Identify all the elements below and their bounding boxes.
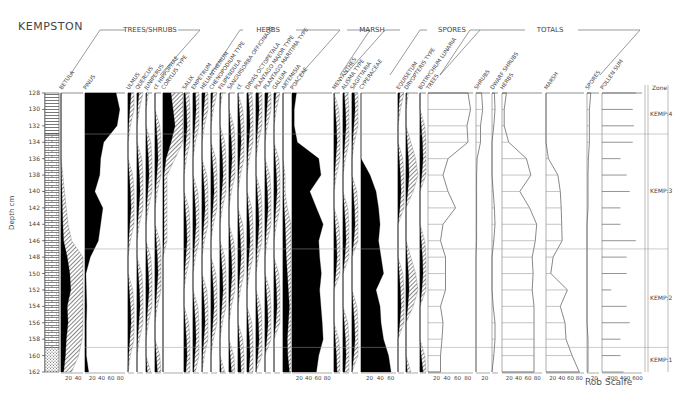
svg-text:132: 132: [29, 122, 41, 129]
svg-text:20: 20: [481, 375, 488, 381]
taxon-column-cf-: cf.: [235, 82, 244, 373]
svg-text:136: 136: [29, 155, 41, 162]
svg-text:146: 146: [29, 237, 41, 244]
svg-text:130: 130: [29, 105, 41, 112]
svg-text:40: 40: [305, 375, 312, 381]
y-axis-label-text: Depth cm: [8, 196, 16, 230]
taxon-column-juniperus: JUNIPERUS: [142, 63, 166, 373]
pollen-diagram: 1281301321341361381401421441461481501521…: [0, 0, 682, 409]
taxon-column-herbs: HERBS20406080: [499, 71, 542, 381]
lithology-column: [45, 93, 59, 372]
taxon-label: cf.: [235, 82, 244, 91]
zone-label: KEMP:4: [650, 110, 673, 117]
svg-text:140: 140: [29, 187, 41, 194]
svg-text:138: 138: [29, 171, 41, 178]
svg-text:20: 20: [89, 375, 96, 381]
taxon-column-spores: SPORES20: [584, 69, 602, 381]
svg-text:152: 152: [29, 286, 41, 293]
svg-text:20: 20: [65, 375, 72, 381]
svg-text:60: 60: [387, 375, 394, 381]
group-header: HERBS: [256, 26, 280, 34]
svg-text:20: 20: [366, 375, 373, 381]
svg-text:60: 60: [524, 375, 531, 381]
svg-text:148: 148: [29, 253, 41, 260]
svg-text:160: 160: [29, 352, 41, 359]
zone-label: KEMP:3: [650, 187, 673, 194]
svg-text:600: 600: [632, 375, 643, 381]
svg-text:60: 60: [314, 375, 321, 381]
svg-text:156: 156: [29, 319, 41, 326]
svg-text:80: 80: [576, 375, 583, 381]
svg-text:20: 20: [506, 375, 513, 381]
taxon-label: POLLEN SUM: [599, 58, 624, 91]
taxon-column-botrychium-lunaria: BOTRYCHIUM LUNARIA: [417, 36, 458, 373]
taxon-column-poaceae: POACEAE20406080: [289, 66, 332, 381]
taxon-label: MARSH: [543, 71, 559, 91]
svg-text:20: 20: [296, 375, 303, 381]
group-header: SPORES: [438, 26, 466, 34]
svg-text:20: 20: [433, 375, 440, 381]
taxon-column-quercus: QUERCUS: [134, 65, 155, 373]
svg-text:80: 80: [464, 375, 471, 381]
taxon-column-marsh: MARSH20406080: [543, 71, 584, 381]
svg-text:200: 200: [607, 375, 618, 381]
svg-text:80: 80: [534, 375, 541, 381]
svg-text:40: 40: [515, 375, 522, 381]
svg-text:20: 20: [549, 375, 556, 381]
group-header: TREES/SHRUBS: [122, 26, 177, 34]
svg-text:134: 134: [29, 138, 41, 145]
svg-text:60: 60: [567, 375, 574, 381]
group-header: TOTALS: [536, 26, 564, 34]
taxon-column-dryopteris-type: DRYOPTERIS TYPE: [403, 46, 437, 373]
taxon-column-pollen-sum: POLLEN SUM200400600: [599, 58, 648, 381]
taxon-label: BETULA: [58, 69, 75, 90]
taxon-label: PINUS: [82, 73, 97, 90]
svg-text:80: 80: [324, 375, 331, 381]
svg-text:Zone: Zone: [652, 84, 668, 91]
svg-text:144: 144: [29, 220, 41, 227]
svg-text:400: 400: [620, 375, 631, 381]
taxon-column-cyperaceae: CYPERACEAE204060: [358, 57, 396, 381]
svg-text:40: 40: [75, 375, 82, 381]
svg-text:154: 154: [29, 302, 41, 309]
svg-text:40: 40: [377, 375, 384, 381]
taxon-column-pinus: PINUS20406080: [82, 73, 125, 381]
svg-text:40: 40: [558, 375, 565, 381]
taxon-column-equisetum: EQUISETUM: [395, 60, 419, 373]
svg-text:128: 128: [29, 89, 41, 96]
zone-label: KEMP:2: [650, 294, 673, 301]
taxon-column-empetrum: EMPETRUM: [190, 62, 213, 373]
zone-label: KEMP:1: [650, 356, 673, 363]
svg-text:60: 60: [107, 375, 114, 381]
taxon-column-betula: BETULA2040: [58, 69, 83, 381]
svg-text:158: 158: [29, 335, 41, 342]
svg-text:20: 20: [591, 375, 598, 381]
group-header: MARSH: [359, 26, 384, 34]
svg-text:40: 40: [443, 375, 450, 381]
svg-text:80: 80: [117, 375, 124, 381]
svg-text:162: 162: [29, 368, 41, 375]
svg-text:60: 60: [454, 375, 461, 381]
svg-text:150: 150: [29, 270, 41, 277]
svg-text:40: 40: [98, 375, 105, 381]
svg-text:142: 142: [29, 204, 41, 211]
taxon-column-shrubs: SHRUBS20: [473, 68, 491, 381]
taxon-column-dwarf-shrubs: DWARF SHRUBS: [489, 50, 520, 373]
taxon-column-trees: TREES20406080: [424, 72, 473, 381]
depth-axis: 1281301321341361381401421441461481501521…: [29, 89, 45, 375]
y-axis-label: Depth cm: [8, 196, 16, 230]
